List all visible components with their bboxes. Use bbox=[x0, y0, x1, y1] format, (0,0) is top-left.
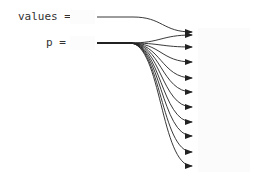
p-wire-9 bbox=[97, 43, 192, 166]
p-wire-0 bbox=[97, 35, 192, 43]
p-wire-7 bbox=[97, 43, 192, 136]
values-wire-0 bbox=[97, 17, 192, 32]
p-wire-8 bbox=[97, 43, 192, 152]
connection-wires bbox=[0, 0, 259, 177]
